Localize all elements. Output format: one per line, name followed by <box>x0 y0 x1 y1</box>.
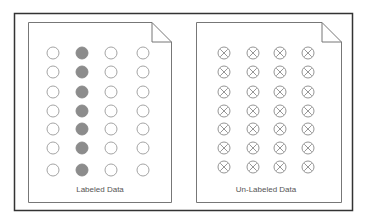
empty-circle-icon <box>105 105 117 117</box>
crossed-circle-icon <box>247 123 259 135</box>
crossed-circle-icon <box>274 123 286 135</box>
crossed-circle-icon <box>218 86 230 98</box>
empty-circle-icon <box>47 105 59 117</box>
crossed-circle-icon <box>274 47 286 59</box>
empty-circle-icon <box>47 164 59 176</box>
empty-circle-icon <box>47 142 59 154</box>
crossed-circle-icon <box>218 105 230 117</box>
crossed-circle-icon <box>218 66 230 78</box>
empty-circle-icon <box>137 66 149 78</box>
crossed-circle-icon <box>274 161 286 173</box>
filled-circle-icon <box>76 142 88 154</box>
crossed-circle-icon <box>247 161 259 173</box>
labeled-data-caption: Labeled Data <box>76 185 124 194</box>
labeled-data-document: Labeled Data <box>29 23 172 203</box>
filled-circle-icon <box>76 66 88 78</box>
filled-circle-icon <box>76 105 88 117</box>
crossed-circle-icon <box>247 142 259 154</box>
crossed-circle-icon <box>247 86 259 98</box>
unlabeled-data-document: Un-Labeled Data <box>197 23 342 203</box>
crossed-circle-icon <box>274 105 286 117</box>
empty-circle-icon <box>47 86 59 98</box>
crossed-circle-icon <box>247 47 259 59</box>
crossed-circle-icon <box>218 47 230 59</box>
empty-circle-icon <box>47 47 59 59</box>
empty-circle-icon <box>47 66 59 78</box>
filled-circle-icon <box>76 86 88 98</box>
unlabeled-data-caption: Un-Labeled Data <box>236 185 297 194</box>
empty-circle-icon <box>137 164 149 176</box>
filled-circle-icon <box>76 47 88 59</box>
empty-circle-icon <box>47 123 59 135</box>
crossed-circle-icon <box>218 123 230 135</box>
crossed-circle-icon <box>302 105 314 117</box>
empty-circle-icon <box>137 142 149 154</box>
empty-circle-icon <box>105 66 117 78</box>
empty-circle-icon <box>137 47 149 59</box>
crossed-circle-icon <box>274 142 286 154</box>
crossed-circle-icon <box>302 142 314 154</box>
filled-circle-icon <box>76 164 88 176</box>
empty-circle-icon <box>105 164 117 176</box>
crossed-circle-icon <box>274 86 286 98</box>
empty-circle-icon <box>105 86 117 98</box>
crossed-circle-icon <box>302 86 314 98</box>
empty-circle-icon <box>137 105 149 117</box>
crossed-circle-icon <box>302 161 314 173</box>
crossed-circle-icon <box>302 66 314 78</box>
crossed-circle-icon <box>247 105 259 117</box>
crossed-circle-icon <box>302 123 314 135</box>
crossed-circle-icon <box>218 142 230 154</box>
crossed-circle-icon <box>302 47 314 59</box>
labeled-vs-unlabeled-diagram: Labeled Data Un-Labeled Data <box>0 0 368 223</box>
empty-circle-icon <box>137 86 149 98</box>
empty-circle-icon <box>105 123 117 135</box>
crossed-circle-icon <box>274 66 286 78</box>
filled-circle-icon <box>76 123 88 135</box>
empty-circle-icon <box>105 142 117 154</box>
empty-circle-icon <box>137 123 149 135</box>
crossed-circle-icon <box>247 66 259 78</box>
empty-circle-icon <box>105 47 117 59</box>
crossed-circle-icon <box>218 161 230 173</box>
